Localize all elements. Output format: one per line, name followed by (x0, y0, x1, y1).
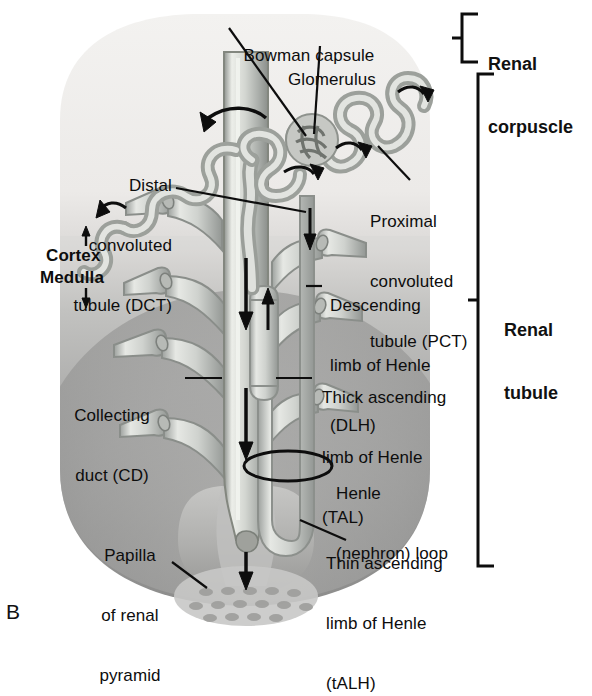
bracket-label-renal-corpuscle-line1: Renal (488, 54, 573, 75)
label-thin-ascending-limb-of-henle: Thin ascending limb of Henle (tALH) (326, 514, 512, 696)
label-glomerulus-line1: Glomerulus (252, 70, 412, 90)
zone-label-cortex: Cortex (46, 246, 146, 266)
label-tal-line1: Thick ascending (322, 388, 508, 408)
figure-letter: B (6, 600, 20, 624)
label-dct-line1: Distal (4, 176, 172, 196)
label-talh-line1: Thin ascending (326, 554, 512, 574)
label-pct-line1: Proximal (370, 212, 550, 232)
bracket-label-renal-corpuscle: Renal corpuscle (488, 12, 573, 180)
label-papilla-line3: pyramid (70, 666, 190, 686)
label-collecting-duct: Collecting duct (CD) (40, 366, 184, 526)
label-papilla-line1: Papilla (70, 546, 190, 566)
label-dct-line3: tubule (DCT) (4, 296, 172, 316)
label-glomerulus: Glomerulus (252, 30, 412, 130)
label-cd-line2: duct (CD) (40, 466, 184, 486)
label-talh-line3: (tALH) (326, 674, 512, 694)
label-papilla-line2: of renal (70, 606, 190, 626)
bracket-label-renal-tubule: Renal tubule (504, 278, 558, 446)
bracket-label-renal-tubule-line2: tubule (504, 383, 558, 404)
bracket-label-renal-tubule-line1: Renal (504, 320, 558, 341)
papillary-duct-opening (236, 531, 258, 552)
label-cd-line1: Collecting (40, 406, 184, 426)
label-henle-loop-line1: Henle (336, 484, 516, 504)
label-talh-line2: limb of Henle (326, 614, 512, 634)
bracket-label-renal-corpuscle-line2: corpuscle (488, 117, 573, 138)
label-papilla-of-renal-pyramid: Papilla of renal pyramid (70, 506, 190, 696)
bracket-renal-corpuscle (452, 14, 478, 62)
thick-ascending-limb (250, 300, 278, 386)
zone-label-medulla: Medulla (40, 268, 150, 288)
label-dlh-line1: Descending (330, 296, 510, 316)
